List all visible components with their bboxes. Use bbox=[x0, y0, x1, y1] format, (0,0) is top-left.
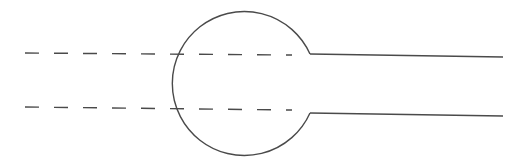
upper-solid-line bbox=[310, 54, 503, 57]
circle-with-opening bbox=[172, 12, 310, 156]
upper-dashed-line bbox=[25, 53, 292, 55]
lower-dashed-line bbox=[25, 107, 292, 110]
lower-solid-line bbox=[310, 113, 503, 116]
diagram-canvas bbox=[0, 0, 529, 158]
